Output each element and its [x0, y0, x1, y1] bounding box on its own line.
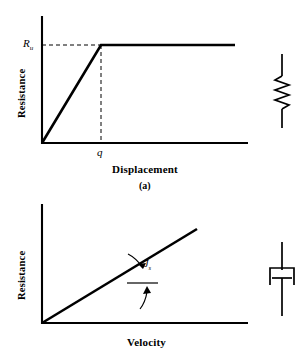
slope-annotation-label: Js [144, 258, 151, 271]
damper-symbol [262, 240, 302, 322]
figure-root: Ru q Resistance Displacement (a) [0, 0, 304, 357]
slope-arrow-lower-curve [140, 292, 147, 309]
damper-symbol-svg [262, 240, 302, 318]
panel-b-plot [0, 196, 304, 357]
x-tick-label-q: q [97, 146, 103, 158]
y-axis-title-a: Resistance [16, 69, 27, 118]
ru-subscript: u [30, 44, 34, 52]
panel-b: Js Resistance Velocity [0, 196, 304, 357]
resistor-symbol [262, 52, 302, 134]
resistor-zigzag [275, 76, 289, 109]
ru-base: R [23, 37, 30, 49]
slope-arrow-lower-head [143, 286, 151, 294]
x-axis-title-b: Velocity [127, 336, 166, 348]
y-tick-label-ru: Ru [23, 37, 33, 52]
resistance-velocity-line [42, 229, 197, 323]
y-axis-title-b: Resistance [16, 251, 27, 300]
js-subscript: s [148, 264, 151, 271]
panel-caption-a: (a) [139, 180, 151, 191]
x-axis-title-a: Displacement [112, 163, 178, 175]
panel-a: Ru q Resistance Displacement (a) [0, 0, 304, 196]
resistance-displacement-curve [42, 45, 235, 143]
resistor-symbol-svg [262, 52, 302, 130]
